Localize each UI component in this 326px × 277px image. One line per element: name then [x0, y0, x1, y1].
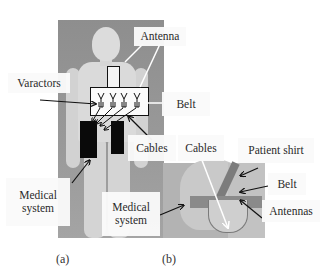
label-varactors: Varactors: [8, 73, 70, 93]
label-antennas: Antennas: [262, 200, 320, 222]
label-cables-b: Cables: [178, 135, 224, 161]
label-medical-system-left: Medical system: [6, 178, 70, 226]
label-cables-a: Cables: [128, 135, 176, 161]
label-antenna: Antenna: [134, 27, 186, 46]
label-belt-a: Belt: [162, 92, 210, 116]
label-belt-b: Belt: [268, 173, 306, 195]
antenna-glyph-icons: [98, 93, 140, 107]
caption-a: (a): [56, 252, 69, 267]
caption-b: (b): [162, 252, 176, 267]
label-medical-system-right: Medical system: [102, 192, 160, 236]
label-patient-shirt: Patient shirt: [238, 138, 314, 163]
